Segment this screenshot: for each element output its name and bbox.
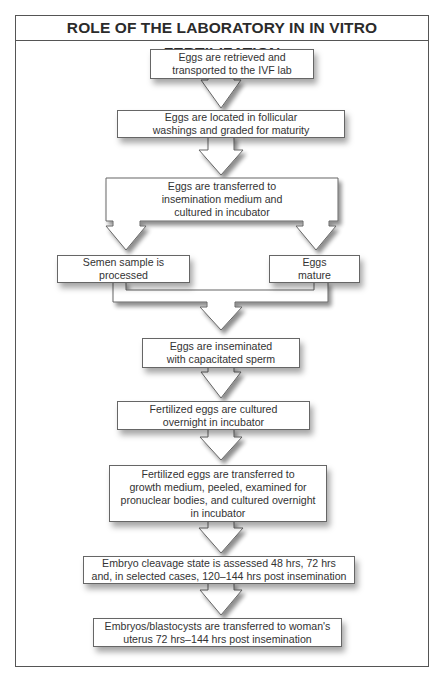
step-text: Eggs are located in follicular xyxy=(153,111,310,124)
step-text: washings and graded for maturity xyxy=(153,124,310,137)
merge-connector xyxy=(113,282,328,330)
step-eggs-located: Eggs are located in follicularwashings a… xyxy=(117,110,345,138)
step-embryo-cleavage: Embryo cleavage state is assessed 48 hrs… xyxy=(83,556,355,584)
step-eggs-inseminated: Eggs are inseminatedwith capacitated spe… xyxy=(142,338,300,368)
step-text: Eggs are transferred to xyxy=(162,180,283,193)
step-text: uterus 72 hrs–144 hrs post insemination xyxy=(105,633,331,646)
step-text: pronuclear bodies, and cultured overnigh… xyxy=(121,494,316,507)
step-text: in incubator xyxy=(121,507,316,520)
down-arrow-5 xyxy=(199,521,243,553)
down-arrow-2 xyxy=(199,136,243,175)
step-text: Fertilized eggs are transferred to xyxy=(121,468,316,481)
step-eggs-retrieved: Eggs are retrieved andtransported to the… xyxy=(150,49,314,79)
step-text: processed xyxy=(83,269,164,282)
step-text: Fertilized eggs are cultured xyxy=(150,403,278,416)
down-arrow-1 xyxy=(201,78,241,108)
down-arrow-6 xyxy=(200,583,242,615)
step-fertilized-transferred: Fertilized eggs are transferred togrowth… xyxy=(109,465,327,522)
step-fertilized-cultured: Fertilized eggs are culturedovernight in… xyxy=(117,401,310,430)
step-text: cultured in incubator xyxy=(162,206,283,219)
down-arrow-4 xyxy=(200,429,242,460)
step-text: Embryo cleavage state is assessed 48 hrs… xyxy=(91,557,346,570)
step-semen-processed: Semen sample isprocessed xyxy=(57,255,190,283)
step-text: Eggs are inseminated xyxy=(167,340,275,353)
step-text: Eggs xyxy=(298,256,331,269)
step-embryo-transfer: Embryos/blastocysts are transferred to w… xyxy=(93,618,342,647)
step-text: Semen sample is xyxy=(83,256,164,269)
step-text: growth medium, peeled, examined for xyxy=(121,481,316,494)
step-text: Embryos/blastocysts are transferred to w… xyxy=(105,620,331,633)
step-text: and, in selected cases, 120–144 hrs post… xyxy=(91,570,346,583)
step-text: with capacitated sperm xyxy=(167,353,275,366)
step-text: insemination medium and xyxy=(162,193,283,206)
step-text: transported to the IVF lab xyxy=(172,64,292,77)
step-eggs-transferred-insemination: Eggs are transferred toinsemination medi… xyxy=(106,178,338,221)
step-eggs-mature: Eggsmature xyxy=(269,255,360,283)
down-arrow-3 xyxy=(201,367,241,398)
step-text: overnight in incubator xyxy=(150,416,278,429)
step-text: mature xyxy=(298,269,331,282)
step-text: Eggs are retrieved and xyxy=(172,51,292,64)
